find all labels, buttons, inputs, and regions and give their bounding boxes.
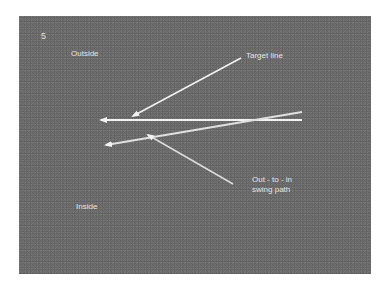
swing-path-label-line2: swing path [252, 185, 290, 194]
target-line-label: Target line [246, 51, 283, 60]
figure-number: 5 [41, 32, 46, 41]
outside-label: Outside [71, 49, 99, 58]
inside-label: Inside [76, 202, 97, 211]
swing-path-arrow [106, 112, 302, 145]
swing-path-pointer [148, 135, 233, 184]
target-line-pointer [133, 58, 241, 116]
swing-diagram-arrows [0, 0, 387, 292]
swing-path-label-line1: Out - to - in [252, 175, 292, 184]
